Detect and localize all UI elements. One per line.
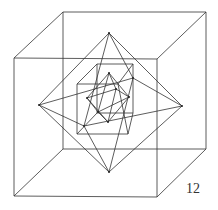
outer-cube-edge (14, 58, 157, 59)
outer-octahedron-vertex (108, 171, 110, 173)
outer-octahedron-edge (133, 78, 182, 106)
figure-number-label: 12 (186, 181, 200, 197)
inner-cube-edge (77, 64, 97, 84)
outer-octahedron-edge (84, 33, 109, 126)
outer-cube-edge (14, 12, 63, 58)
inner-octahedron-vertex (128, 96, 130, 98)
outer-cube-edge (14, 196, 157, 197)
inner-octahedron-edge (109, 73, 129, 97)
inner-octahedron-edge (98, 112, 108, 122)
inner-octahedron-vertex (107, 121, 109, 123)
inner-octahedron-edge (109, 73, 116, 89)
outer-octahedron-edge (39, 78, 133, 105)
outer-octahedron-edge (109, 106, 182, 172)
inner-octahedron-vertex (97, 111, 99, 113)
inner-octahedron-vertex (108, 72, 110, 74)
outer-octahedron-vertex (108, 32, 110, 34)
outer-cube-edge (157, 12, 206, 59)
inner-octahedron-edge (116, 89, 129, 97)
inner-octahedron-vertex (86, 97, 88, 99)
inner-octahedron-vertex (115, 88, 117, 90)
outer-octahedron-vertex (181, 105, 183, 107)
nested-polyhedra-diagram (0, 0, 218, 210)
outer-octahedron-edge (109, 33, 133, 78)
outer-octahedron-vertex (38, 104, 40, 106)
outer-cube-edge (14, 149, 63, 196)
